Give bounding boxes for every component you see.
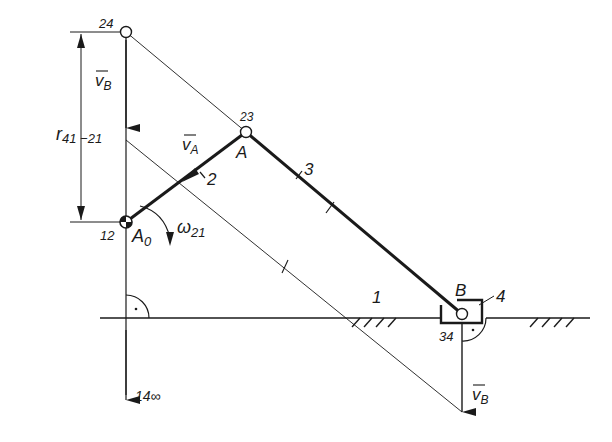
label-r41-21: r41 −21 (56, 124, 102, 146)
label-pole-23: 23 (239, 110, 254, 124)
label-link-4: 4 (496, 287, 505, 306)
label-point-A: A (235, 143, 247, 162)
joint-24 (121, 27, 132, 38)
label-point-B: B (455, 281, 466, 300)
label-omega-21: ω21 (177, 217, 206, 240)
ground-hatch-right (530, 318, 574, 327)
label-point-A0: A0 (131, 226, 152, 249)
label-link-2: 2 (206, 170, 217, 189)
dimension-r41-21 (70, 32, 126, 222)
pole-line-24-34 (126, 32, 246, 132)
ground-hatch-left (352, 318, 396, 327)
label-vA: vA (182, 135, 199, 157)
fixed-pivot-A0 (120, 216, 132, 228)
link-2-tick (200, 172, 205, 178)
label-pole-12: 12 (100, 228, 115, 243)
label-link-3: 3 (304, 160, 314, 179)
label-link-1: 1 (372, 288, 381, 307)
mechanism-diagram: 24 23 A 2 3 12 A0 ω21 vA vB r41 −21 1 B … (0, 0, 612, 442)
right-angle-mark-left (126, 295, 149, 318)
label-pole-34: 34 (439, 329, 453, 344)
construction-line-parallel-3 (126, 140, 462, 412)
label-pole-24: 24 (98, 16, 113, 31)
label-vB-top: vB (95, 71, 112, 93)
joint-A-23 (241, 127, 252, 138)
label-vB-bottom: vB (472, 385, 489, 407)
joint-B-34 (457, 309, 468, 320)
link-3-coupler (246, 132, 462, 314)
label-pole-14-infinity: 14∞ (135, 388, 161, 404)
